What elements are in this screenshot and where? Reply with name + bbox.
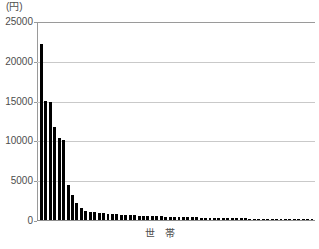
bar xyxy=(93,212,96,220)
bar xyxy=(280,219,283,220)
bar xyxy=(155,216,158,220)
bar xyxy=(200,218,203,220)
bar xyxy=(253,219,256,220)
bar xyxy=(107,214,110,220)
bar xyxy=(235,218,238,220)
bar-series xyxy=(38,22,315,220)
bar xyxy=(67,185,70,220)
bar xyxy=(178,217,181,220)
bar xyxy=(138,216,141,221)
bar xyxy=(222,218,225,220)
bar xyxy=(160,216,163,220)
bar xyxy=(169,217,172,220)
y-axis-unit-label: (円) xyxy=(6,1,23,13)
plot-area: 0500010000150002000025000 xyxy=(37,22,315,221)
bar xyxy=(173,217,176,220)
bar xyxy=(293,219,296,220)
bar xyxy=(98,213,101,220)
bar xyxy=(204,218,207,220)
bar xyxy=(182,217,185,220)
y-axis-tick-mark xyxy=(34,62,37,63)
bar xyxy=(53,127,56,220)
bar xyxy=(288,219,291,220)
bar xyxy=(209,218,212,220)
y-axis-tick-label: 5000 xyxy=(11,176,33,186)
bar xyxy=(120,215,123,220)
bar xyxy=(89,212,92,220)
y-axis-tick-label: 20000 xyxy=(5,57,33,67)
bar xyxy=(306,219,309,220)
bar xyxy=(302,219,305,220)
bar xyxy=(191,217,194,220)
bar xyxy=(80,208,83,220)
bar xyxy=(151,216,154,220)
bar xyxy=(84,211,87,221)
bar xyxy=(213,218,216,220)
bar xyxy=(244,218,247,220)
bar xyxy=(115,214,118,220)
bar-chart: (円) 0500010000150002000025000 世 帯 xyxy=(0,0,319,249)
bar xyxy=(195,217,198,220)
y-axis-tick-label: 0 xyxy=(27,216,33,226)
y-axis-tick-mark xyxy=(34,141,37,142)
bar xyxy=(62,140,65,220)
bar xyxy=(102,213,105,220)
bar xyxy=(186,217,189,220)
bar xyxy=(248,219,251,221)
x-axis-title: 世 帯 xyxy=(0,228,319,240)
bar xyxy=(40,44,43,220)
bar xyxy=(262,219,265,220)
bar xyxy=(297,219,300,220)
bar xyxy=(129,215,132,220)
bar xyxy=(257,219,260,220)
bar xyxy=(217,218,220,220)
y-axis-tick-mark xyxy=(34,22,37,23)
bar xyxy=(71,195,74,220)
bar xyxy=(275,219,278,220)
bar xyxy=(231,218,234,220)
bar xyxy=(58,138,61,220)
bar xyxy=(164,217,167,220)
bar xyxy=(240,218,243,220)
bar xyxy=(311,219,314,220)
bar xyxy=(75,203,78,220)
y-axis-tick-label: 15000 xyxy=(5,97,33,107)
bar xyxy=(111,214,114,220)
bar xyxy=(49,102,52,220)
bar xyxy=(284,219,287,220)
x-axis-line xyxy=(37,220,315,221)
y-axis-tick-mark xyxy=(34,221,37,222)
bar xyxy=(226,218,229,220)
bar xyxy=(146,216,149,220)
bar xyxy=(271,219,274,220)
y-axis-tick-mark xyxy=(34,102,37,103)
bar xyxy=(266,219,269,220)
y-axis-tick-label: 25000 xyxy=(5,17,33,27)
bar xyxy=(142,216,145,220)
y-axis-tick-mark xyxy=(34,181,37,182)
bar xyxy=(44,101,47,220)
bar xyxy=(124,215,127,220)
y-axis-tick-label: 10000 xyxy=(5,136,33,146)
bar xyxy=(133,215,136,220)
